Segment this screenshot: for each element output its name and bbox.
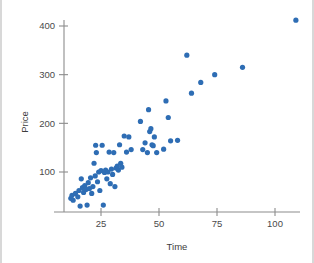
data-point: [101, 202, 106, 207]
data-point: [145, 150, 150, 155]
y-axis-title: Price: [19, 111, 30, 133]
scatter-plot-figure: 100200300400 255075100 Price Time: [0, 0, 314, 263]
x-axis-tick-label: 100: [267, 218, 283, 229]
data-point: [124, 149, 129, 154]
data-point: [109, 166, 114, 171]
x-axis-title: Time: [167, 241, 188, 252]
data-point: [110, 172, 115, 177]
x-axis-tick-label: 75: [212, 218, 223, 229]
data-point: [93, 173, 98, 178]
data-point: [93, 143, 98, 148]
data-point: [119, 165, 124, 170]
x-axis-tick-label: 50: [154, 218, 165, 229]
y-axis: 100200300400: [39, 20, 68, 212]
data-point: [140, 147, 145, 152]
data-point: [108, 181, 113, 186]
data-point: [112, 184, 117, 189]
data-point: [95, 179, 100, 184]
data-point: [175, 138, 180, 143]
data-point: [84, 202, 89, 207]
data-point: [100, 143, 105, 148]
data-point: [166, 115, 171, 120]
data-point: [97, 188, 102, 193]
data-point: [189, 91, 194, 96]
y-axis-tick-label: 300: [39, 69, 55, 80]
data-point: [86, 180, 91, 185]
x-axis-tick-label: 25: [96, 218, 107, 229]
data-point: [161, 147, 166, 152]
data-point: [71, 198, 76, 203]
data-point: [122, 133, 127, 138]
data-point: [126, 134, 131, 139]
data-point: [151, 143, 156, 148]
data-point: [198, 80, 203, 85]
data-point: [163, 98, 168, 103]
y-axis-tick-label: 400: [39, 20, 55, 31]
data-point: [240, 65, 245, 70]
data-point: [107, 149, 112, 154]
data-point: [75, 194, 80, 199]
data-point: [78, 203, 83, 208]
data-point: [111, 150, 116, 155]
x-axis: 255075100: [54, 208, 300, 229]
data-point: [142, 140, 147, 145]
y-axis-tick-label: 200: [39, 118, 55, 129]
data-point: [94, 150, 99, 155]
data-point: [212, 72, 217, 77]
data-points-group: [68, 18, 298, 209]
data-point: [79, 176, 84, 181]
data-point: [293, 18, 298, 23]
data-point: [88, 175, 93, 180]
data-point: [104, 176, 109, 181]
data-point: [148, 126, 153, 131]
data-point: [90, 184, 95, 189]
data-point: [117, 142, 122, 147]
data-point: [146, 107, 151, 112]
scatter-plot-canvas: 100200300400 255075100 Price Time: [2, 0, 314, 263]
data-point: [152, 134, 157, 139]
y-axis-tick-label: 100: [39, 166, 55, 177]
data-point: [89, 191, 94, 196]
data-point: [184, 53, 189, 58]
data-point: [138, 119, 143, 124]
data-point: [154, 150, 159, 155]
data-point: [91, 161, 96, 166]
data-point: [168, 138, 173, 143]
data-point: [129, 147, 134, 152]
